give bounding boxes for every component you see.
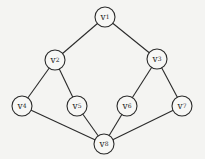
node-label-v6: v6 [117,96,137,116]
node-label-v1: v1 [95,7,115,27]
node-label-v7: v7 [172,96,192,116]
node-subscript: 2 [56,57,60,63]
node-subscript: 7 [183,103,187,109]
node-subscript: 6 [128,103,132,109]
node-subscript: 1 [106,14,110,20]
node-label-v4: v4 [12,96,32,116]
edge-v4-v8 [22,106,104,144]
node-subscript: 5 [78,103,82,109]
node-label-v8: v8 [94,134,114,154]
graph-diagram: v1v2v3v4v5v6v7v8 [0,0,205,159]
node-label-v5: v5 [67,96,87,116]
node-label-v3: v3 [147,49,167,69]
node-subscript: 8 [105,141,109,147]
node-subscript: 3 [158,56,162,62]
node-label-v2: v2 [45,50,65,70]
node-subscript: 4 [23,103,27,109]
